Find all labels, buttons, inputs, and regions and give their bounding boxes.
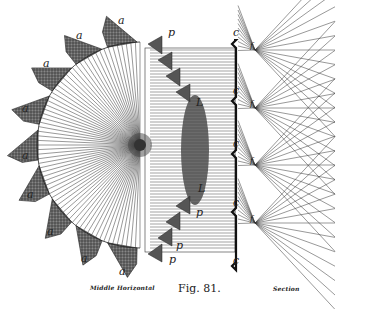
label-f: f	[250, 100, 253, 108]
label-c: c	[233, 27, 239, 38]
caption-middle-horizontal: Middle Horizontal	[90, 285, 155, 291]
label-f: f	[250, 215, 253, 223]
label-a: a	[43, 58, 50, 69]
label-c: c	[233, 197, 239, 208]
label-p: p	[196, 207, 203, 218]
label-L: L	[198, 183, 205, 194]
lighthouse-lens-diagram	[0, 0, 369, 309]
label-c: c	[233, 85, 239, 96]
label-a: a	[47, 226, 54, 237]
label-p: p	[169, 254, 176, 265]
label-f: f	[250, 42, 253, 50]
figure-number: Fig. 81.	[178, 283, 221, 294]
label-a: a	[81, 253, 88, 264]
middle-horizontal-view	[7, 16, 152, 277]
label-a: a	[22, 103, 29, 114]
label-p: p	[176, 240, 183, 251]
label-c: c	[233, 255, 239, 266]
label-a: a	[119, 266, 126, 277]
label-p: p	[168, 27, 175, 38]
label-a: a	[76, 30, 83, 41]
label-L: L	[196, 97, 203, 108]
label-f: f	[250, 157, 253, 165]
label-a: a	[118, 15, 125, 26]
label-a: a	[27, 189, 34, 200]
caption-section: Section	[273, 286, 300, 292]
lens-panel	[145, 36, 236, 270]
label-c: c	[233, 138, 239, 149]
label-a: a	[22, 150, 29, 161]
